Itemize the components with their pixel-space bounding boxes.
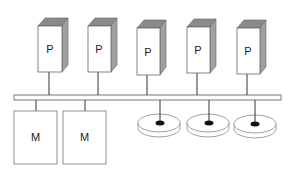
disk-node (138, 100, 180, 137)
memory-label: M (31, 131, 40, 143)
processor-label: P (194, 44, 201, 56)
processor-node: P (137, 20, 166, 95)
disk-node (234, 100, 276, 138)
processor-node: P (237, 20, 266, 95)
disk-node (187, 100, 229, 137)
memory-node: M (14, 100, 57, 164)
shared-bus (14, 95, 281, 100)
processor-node: P (38, 18, 68, 95)
processor-label: P (95, 43, 102, 55)
processor-label: P (244, 45, 251, 57)
processor-label: P (46, 43, 53, 55)
processor-node: P (187, 19, 216, 95)
processor-node: P (88, 18, 117, 95)
memory-node: M (63, 100, 106, 164)
shared-bus-architecture-diagram: P P P P P M M (0, 0, 296, 173)
memory-label: M (80, 131, 89, 143)
processor-label: P (144, 46, 151, 58)
